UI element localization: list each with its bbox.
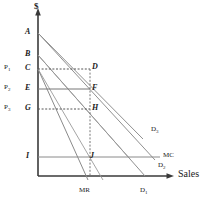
point-label-j: J xyxy=(90,152,94,160)
point-label-c: C xyxy=(25,64,30,72)
point-label-h: H xyxy=(92,104,98,112)
point-label-b: B xyxy=(25,50,30,58)
point-label-e: E xyxy=(25,84,30,92)
curve-label-mc: MC xyxy=(163,152,174,159)
x-axis-arrow xyxy=(167,173,175,179)
curve-label-d3: D3 xyxy=(151,126,159,134)
price-label-p2-sub: 2 xyxy=(8,87,11,92)
y-axis-label: $ xyxy=(34,2,39,11)
curve-label-d2-sub: 2 xyxy=(163,165,166,170)
curve-label-d2: D2 xyxy=(158,162,166,170)
price-label-p3: P3 xyxy=(4,104,10,112)
point-label-g: G xyxy=(25,104,31,112)
point-label-d: D xyxy=(92,63,98,71)
curve-d1-inner xyxy=(38,55,130,159)
curve-label-d1-sub: 1 xyxy=(145,190,148,195)
point-label-i: I xyxy=(26,152,29,160)
curve-label-mr: MR xyxy=(79,187,90,194)
price-label-p1-sub: 1 xyxy=(8,67,11,72)
economics-diagram: $ Sales P1 P2 P3 A B C E G I D F H J D3 … xyxy=(0,0,215,205)
curve-label-d3-sub: 3 xyxy=(156,129,159,134)
curve-label-mc-text: MC xyxy=(163,151,174,159)
point-label-f: F xyxy=(92,84,97,92)
x-axis-label: Sales xyxy=(178,169,199,179)
curve-label-mr-text: MR xyxy=(79,186,90,194)
curve-d2 xyxy=(38,33,155,160)
price-label-p2: P2 xyxy=(4,84,10,92)
point-label-a: A xyxy=(25,28,30,36)
curve-label-d1: D1 xyxy=(140,187,148,195)
curve-mr xyxy=(38,69,88,180)
price-label-p3-sub: 3 xyxy=(8,107,11,112)
price-label-p1: P1 xyxy=(4,64,10,72)
